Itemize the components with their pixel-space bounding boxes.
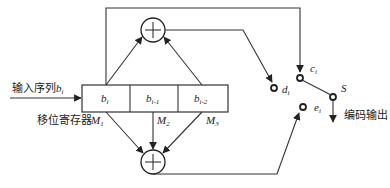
bottom-xor-output-path [153, 113, 299, 174]
top-xor-adder-icon [141, 18, 165, 42]
input-variable: bi [56, 82, 64, 96]
top-xor-input-right [164, 37, 202, 85]
encoded-output-label: 编码输出 [344, 108, 388, 122]
convolutional-encoder-diagram: 输入序列 bi bi bi-1 bi-2 移位寄存器 M1 M2 M3 ci d… [0, 0, 390, 188]
terminal-d-label: di [282, 83, 290, 97]
terminal-c-label: ci [310, 62, 317, 76]
top-xor-input-left [106, 37, 142, 85]
input-sequence-label: 输入序列 [12, 81, 56, 95]
bottom-xor-input-left [106, 112, 143, 153]
top-xor-output-path [165, 30, 272, 82]
tap-m3-label: M3 [205, 114, 219, 128]
terminal-e-label: ei [314, 101, 321, 115]
tap-m2-label: M2 [156, 114, 170, 128]
shift-register-label: 移位寄存器 [37, 113, 92, 127]
switch-arm [302, 80, 331, 95]
terminal-d [271, 85, 277, 91]
terminal-e [300, 104, 306, 110]
bottom-xor-input-right [163, 112, 202, 153]
switch-label: S [341, 82, 347, 94]
tap-m1-label: M1 [90, 114, 104, 128]
bottom-xor-adder-icon [141, 150, 165, 174]
